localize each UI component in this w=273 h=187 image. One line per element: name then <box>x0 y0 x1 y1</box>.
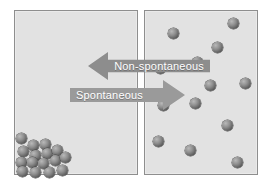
spontaneous-arrow-label: Spontaneous <box>76 89 143 101</box>
gas-particle <box>153 136 164 147</box>
gas-particle <box>212 42 223 53</box>
gas-particle <box>232 157 243 168</box>
gas-particle <box>60 152 71 163</box>
gas-particle <box>222 120 233 131</box>
gas-particle <box>190 98 201 109</box>
gas-particle <box>17 166 28 177</box>
gas-particle <box>30 167 41 178</box>
gas-particle <box>185 145 196 156</box>
gas-particle <box>240 78 251 89</box>
gas-particle <box>44 167 55 178</box>
gas-particle <box>57 165 68 176</box>
gas-particle <box>228 18 239 29</box>
gas-particle <box>205 80 216 91</box>
gas-particle <box>168 28 179 39</box>
gas-particle <box>16 133 27 144</box>
gas-particle <box>18 146 29 157</box>
non-spontaneous-arrow-label: Non-spontaneous <box>114 60 204 72</box>
entropy-diagram: Non-spontaneous Spontaneous <box>0 0 273 187</box>
